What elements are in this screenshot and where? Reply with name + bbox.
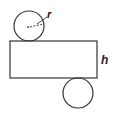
- radius-dashed-line: [30, 24, 43, 27]
- radius-label: r: [47, 9, 51, 20]
- cylinder-net-diagram: [0, 0, 116, 113]
- lateral-surface-rectangle: [10, 41, 97, 78]
- center-point: [27, 26, 29, 28]
- height-label: h: [101, 54, 108, 66]
- top-base-circle: [14, 11, 44, 41]
- bottom-base-circle: [63, 78, 93, 108]
